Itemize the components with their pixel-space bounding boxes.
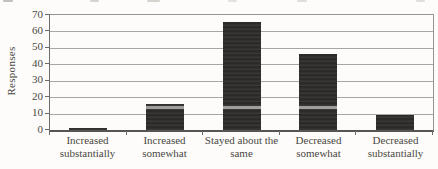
y-tick-label: 70 [0,8,43,21]
y-tick-label: 0 [0,123,43,136]
category-label: Decreased somewhat [280,134,357,160]
bar-3 [223,22,261,130]
bar-5 [376,115,414,130]
y-tick-label: 30 [0,73,43,86]
y-tick-mark [45,129,50,130]
y-tick-label: 40 [0,57,43,70]
scan-artifact [228,0,237,2]
scan-artifact [147,0,160,2]
category-label: Decreased substantially [357,134,434,160]
scan-artifact [90,0,99,2]
bar-chart-figure: Responses 010203040506070 Increased subs… [0,0,438,169]
y-tick-label: 50 [0,40,43,53]
bar-4 [299,54,337,130]
y-axis-title: Responses [5,46,17,95]
bar-1 [69,128,107,130]
y-tick-label: 20 [0,90,43,103]
scan-artifact [297,0,307,2]
category-label: Increased somewhat [126,134,203,160]
y-tick-label: 10 [0,106,43,119]
category-label: Increased substantially [49,134,126,160]
scan-artifact [416,0,425,2]
y-tick-mark [45,14,50,15]
y-tick-label: 60 [0,24,43,37]
bar-2 [146,104,184,130]
plot-area [49,14,434,132]
x-axis-labels: Increased substantiallyIncreased somewha… [49,134,434,160]
category-label: Stayed about the same [203,134,280,160]
scan-artifact [3,0,13,2]
